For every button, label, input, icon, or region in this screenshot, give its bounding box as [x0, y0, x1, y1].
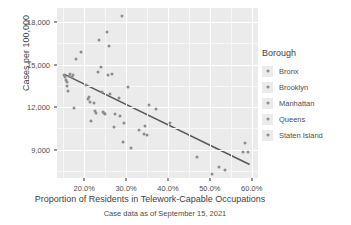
data-point [123, 121, 126, 124]
gridline-minor-y [57, 43, 258, 44]
x-tick-label: 30.0% [115, 184, 136, 193]
data-point [89, 120, 92, 123]
data-point [148, 104, 151, 107]
legend-swatch-icon [262, 130, 273, 141]
x-tick-mark [251, 178, 252, 181]
y-tick-mark [54, 107, 57, 108]
legend-title: Borough [262, 48, 351, 58]
gridline-minor-x [231, 8, 232, 178]
gridline-minor-x [189, 8, 190, 178]
data-point [108, 45, 111, 48]
data-point [210, 173, 213, 176]
gridline-minor-x [147, 8, 148, 178]
data-point [89, 101, 92, 104]
legend-item-manhattan[interactable]: Manhattan [262, 96, 351, 110]
data-point [110, 72, 113, 75]
legend-item-brooklyn[interactable]: Brooklyn [262, 80, 351, 94]
legend-item-label: Staten Island [279, 131, 323, 140]
data-point [80, 50, 83, 53]
data-point [130, 146, 133, 149]
legend-item-label: Bronx [279, 67, 299, 76]
y-tick-mark [54, 64, 57, 65]
data-point [109, 92, 112, 95]
data-point [137, 128, 140, 131]
data-point [114, 112, 117, 115]
x-tick-mark [167, 178, 168, 181]
gridline-x [210, 8, 211, 178]
scatter-chart: Cases per 100,000 9,00012,00015,00018,00… [0, 0, 351, 225]
data-point [117, 96, 120, 99]
data-point [126, 85, 129, 88]
trendline [57, 8, 258, 178]
legend-item-label: Brooklyn [279, 83, 308, 92]
legend-swatch-icon [262, 82, 273, 93]
data-point [241, 150, 244, 153]
y-tick-label: 12,000 [27, 103, 50, 112]
data-point [66, 89, 69, 92]
data-point [66, 84, 69, 87]
data-point [247, 150, 250, 153]
y-axis-ticklabels: 9,00012,00015,00018,000 [10, 0, 54, 225]
y-tick-label: 15,000 [27, 60, 50, 69]
y-tick-label: 9,000 [31, 145, 50, 154]
x-tick-label: 60.0% [241, 184, 262, 193]
legend-item-label: Manhattan [279, 99, 314, 108]
gridline-minor-y [57, 128, 258, 129]
data-point [243, 141, 246, 144]
x-tick-mark [84, 178, 85, 181]
x-tick-mark [126, 178, 127, 181]
data-point [71, 74, 74, 77]
gridline-y [57, 150, 258, 151]
x-tick-label: 50.0% [199, 184, 220, 193]
data-point [98, 38, 101, 41]
gridline-y [57, 22, 258, 23]
data-point [119, 114, 122, 117]
data-point [218, 165, 221, 168]
gridline-y [57, 65, 258, 66]
legend-item-bronx[interactable]: Bronx [262, 64, 351, 78]
data-point [92, 101, 95, 104]
data-point [73, 106, 76, 109]
data-point [120, 14, 123, 17]
legend-item-staten-island[interactable]: Staten Island [262, 128, 351, 142]
data-point [154, 107, 157, 110]
y-tick-mark [54, 22, 57, 23]
legend-swatch-icon [262, 114, 273, 125]
x-axis-title: Proportion of Residents in Telework-Capa… [0, 194, 300, 204]
data-point [94, 111, 97, 114]
gridline-x [252, 8, 253, 178]
gridline-x [84, 8, 85, 178]
legend-item-queens[interactable]: Queens [262, 112, 351, 126]
data-point [96, 70, 99, 73]
data-point [84, 84, 87, 87]
data-point [105, 31, 108, 34]
data-point [104, 113, 107, 116]
data-point [112, 126, 115, 129]
gridline-minor-y [57, 171, 258, 172]
data-point [144, 124, 147, 127]
legend: Borough BronxBrooklynManhattanQueensStat… [262, 48, 351, 144]
x-tick-label: 20.0% [74, 184, 95, 193]
gridline-x [168, 8, 169, 178]
data-point [196, 155, 199, 158]
data-point [101, 91, 104, 94]
plot-panel [57, 8, 258, 178]
data-point [88, 96, 91, 99]
legend-items: BronxBrooklynManhattanQueensStaten Islan… [262, 64, 351, 142]
data-point [99, 65, 102, 68]
gridline-x [126, 8, 127, 178]
data-point [223, 169, 226, 172]
y-tick-label: 18,000 [27, 18, 50, 27]
data-point [74, 58, 77, 61]
gridline-y [57, 107, 258, 108]
y-tick-mark [54, 149, 57, 150]
data-point [145, 133, 148, 136]
data-point [121, 140, 124, 143]
gridline-minor-x [63, 8, 64, 178]
chart-caption: Case data as of September 15, 2021 [0, 209, 330, 218]
legend-swatch-icon [262, 98, 273, 109]
legend-swatch-icon [262, 66, 273, 77]
data-point [107, 73, 110, 76]
x-tick-label: 40.0% [157, 184, 178, 193]
x-tick-mark [209, 178, 210, 181]
